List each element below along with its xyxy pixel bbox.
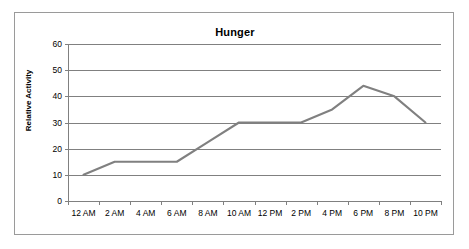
x-tick-mark-10 <box>379 201 380 205</box>
y-tick-label-40: 40 <box>53 91 62 101</box>
x-tick-mark-1 <box>99 201 100 205</box>
y-tick-label-30: 30 <box>53 118 62 128</box>
x-tick-label-12-am: 12 AM <box>71 208 95 218</box>
y-axis-title: Relative Activity <box>24 51 33 151</box>
x-tick-label-12-pm: 12 PM <box>258 208 283 218</box>
chart-frame: Hunger Relative Activity 0102030405060 1… <box>14 12 454 235</box>
x-tick-label-10-pm: 10 PM <box>413 208 438 218</box>
x-tick-label-10-am: 10 AM <box>227 208 251 218</box>
x-tick-label-8-pm: 8 PM <box>384 208 404 218</box>
x-tick-mark-2 <box>130 201 131 205</box>
y-tick-label-50: 50 <box>53 65 62 75</box>
chart-title: Hunger <box>15 26 455 38</box>
x-tick-mark-6 <box>255 201 256 205</box>
x-tick-label-4-am: 4 AM <box>136 208 155 218</box>
x-tick-mark-12 <box>441 201 442 205</box>
x-tick-mark-9 <box>348 201 349 205</box>
x-tick-label-6-pm: 6 PM <box>353 208 373 218</box>
x-tick-mark-11 <box>410 201 411 205</box>
data-series-hunger <box>68 44 441 201</box>
x-tick-mark-8 <box>317 201 318 205</box>
y-tick-label-20: 20 <box>53 144 62 154</box>
x-tick-label-4-pm: 4 PM <box>322 208 342 218</box>
x-tick-label-8-am: 8 AM <box>198 208 217 218</box>
x-tick-mark-3 <box>161 201 162 205</box>
x-tick-mark-0 <box>68 201 69 205</box>
y-tick-label-0: 0 <box>57 196 62 206</box>
x-tick-label-2-pm: 2 PM <box>291 208 311 218</box>
x-tick-mark-5 <box>223 201 224 205</box>
x-tick-label-6-am: 6 AM <box>167 208 186 218</box>
x-tick-label-2-am: 2 AM <box>105 208 124 218</box>
x-tick-mark-4 <box>192 201 193 205</box>
y-tick-label-10: 10 <box>53 170 62 180</box>
plot-area: 0102030405060 12 AM2 AM4 AM6 AM8 AM10 AM… <box>68 44 441 201</box>
x-tick-mark-7 <box>286 201 287 205</box>
y-tick-label-60: 60 <box>53 39 62 49</box>
